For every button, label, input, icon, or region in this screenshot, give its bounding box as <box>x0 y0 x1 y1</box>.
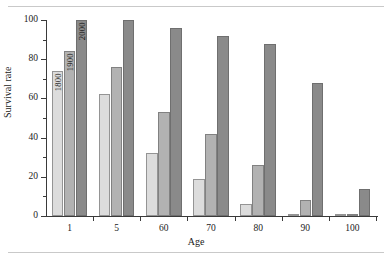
bar-1800-age-5 <box>99 94 110 216</box>
bar-1900-age-5 <box>111 67 122 216</box>
bar-2000-age-5 <box>123 20 134 216</box>
y-tick-mark-minor <box>43 157 46 158</box>
x-tick-label-90: 90 <box>301 224 311 234</box>
y-tick-label: 0 <box>33 211 38 221</box>
bar-1800-age-80 <box>240 204 251 216</box>
y-tick-mark <box>41 20 46 21</box>
bar-2000-age-90 <box>312 83 323 216</box>
bar-2000-age-60 <box>170 28 181 216</box>
bar-1800-age-70 <box>193 179 204 216</box>
bar-1800-age-100 <box>335 214 346 216</box>
y-tick-mark <box>41 98 46 99</box>
y-tick-mark-minor <box>43 196 46 197</box>
x-axis-title: Age <box>0 236 392 247</box>
y-tick-mark <box>41 216 46 217</box>
x-tick-mark <box>282 216 283 221</box>
bottom-rule-divider <box>8 252 384 253</box>
bar-1900-age-90 <box>300 200 311 216</box>
x-tick-label-70: 70 <box>206 224 216 234</box>
x-tick-mark <box>235 216 236 221</box>
y-axis-title: Survival rate <box>2 67 13 118</box>
bar-1900-age-100 <box>347 214 358 216</box>
y-tick-label: 60 <box>29 94 39 104</box>
bar-1900-age-60 <box>158 112 169 216</box>
series-label-1800: 1800 <box>53 73 62 91</box>
top-rule-divider <box>8 6 384 7</box>
bar-2000-age-80 <box>264 44 275 216</box>
series-label-2000: 2000 <box>77 22 86 40</box>
bar-2000-age-1: 2000 <box>76 20 87 216</box>
bar-1900-age-80 <box>252 165 263 216</box>
series-label-1900: 1900 <box>65 54 74 72</box>
bar-1900-age-1: 1900 <box>64 51 75 216</box>
x-tick-label-5: 5 <box>114 224 119 234</box>
figure-container: Survival rate Age 0204060801001800190020… <box>0 0 392 260</box>
x-tick-label-1: 1 <box>67 224 72 234</box>
y-tick-mark <box>41 138 46 139</box>
x-tick-label-80: 80 <box>253 224 263 234</box>
y-tick-mark <box>41 177 46 178</box>
x-tick-mark <box>329 216 330 221</box>
bar-2000-age-70 <box>217 36 228 216</box>
y-tick-mark <box>41 59 46 60</box>
plot-area: 0204060801001800190020001560708090100 <box>46 20 376 216</box>
bar-1800-age-1: 1800 <box>52 71 63 216</box>
x-tick-mark <box>376 216 377 221</box>
bar-1800-age-60 <box>146 153 157 216</box>
x-tick-label-60: 60 <box>159 224 169 234</box>
bar-2000-age-100 <box>359 189 370 216</box>
caption-remnant <box>14 0 378 3</box>
y-tick-label: 20 <box>29 172 39 182</box>
x-tick-mark <box>93 216 94 221</box>
y-tick-mark-minor <box>43 118 46 119</box>
x-tick-mark <box>140 216 141 221</box>
x-tick-mark <box>187 216 188 221</box>
y-tick-label: 80 <box>29 54 39 64</box>
y-tick-mark-minor <box>43 40 46 41</box>
bar-1900-age-70 <box>205 134 216 216</box>
y-tick-label: 100 <box>24 15 38 25</box>
y-tick-mark-minor <box>43 79 46 80</box>
x-tick-label-100: 100 <box>345 224 359 234</box>
bar-1800-age-90 <box>288 214 299 216</box>
y-tick-label: 40 <box>29 133 39 143</box>
